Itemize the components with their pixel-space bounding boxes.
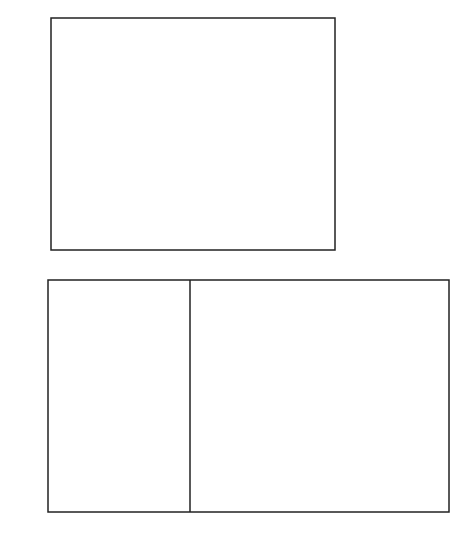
scatter-figure — [0, 0, 461, 549]
figure — [0, 0, 461, 549]
top-plot-frame — [51, 18, 335, 250]
bottom-plots — [48, 280, 449, 512]
top-plot-o-f — [51, 18, 335, 250]
bottom-plot-frame — [48, 280, 449, 512]
